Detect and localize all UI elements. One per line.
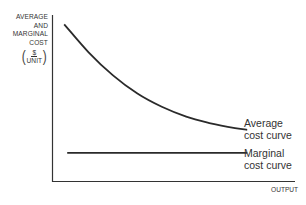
marginal-cost-label-line-2: cost curve	[244, 159, 292, 171]
average-cost-curve	[64, 24, 247, 130]
marginal-cost-label-line-1: Marginal	[244, 147, 292, 159]
x-axis-label: OUTPUT	[271, 186, 298, 193]
plot-area	[0, 0, 306, 205]
average-cost-label-line-1: Average	[244, 117, 292, 129]
marginal-cost-label: Marginal cost curve	[244, 147, 292, 171]
average-cost-label-line-2: cost curve	[244, 129, 292, 141]
average-cost-label: Average cost curve	[244, 117, 292, 141]
